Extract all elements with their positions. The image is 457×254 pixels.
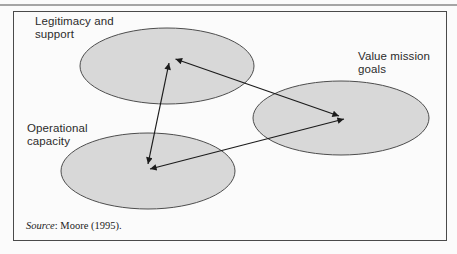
label-operational-line2: capacity xyxy=(27,135,88,148)
label-legitimacy-support: Legitimacy and support xyxy=(35,15,114,40)
label-value-mission-goals: Value mission goals xyxy=(358,50,430,75)
label-value-line1: Value mission xyxy=(358,50,430,63)
label-legitimacy-line1: Legitimacy and xyxy=(35,15,114,28)
label-operational-line1: Operational xyxy=(27,122,88,135)
ellipse-value-mission-goals xyxy=(253,81,429,155)
figure-canvas: Legitimacy and support Value mission goa… xyxy=(0,0,457,254)
label-legitimacy-line2: support xyxy=(35,28,114,41)
label-operational-capacity: Operational capacity xyxy=(27,122,88,147)
label-value-line2: goals xyxy=(358,63,430,76)
source-text: : Moore (1995). xyxy=(55,220,122,231)
source-label: Source xyxy=(26,220,55,231)
source-citation: Source: Moore (1995). xyxy=(26,220,122,231)
